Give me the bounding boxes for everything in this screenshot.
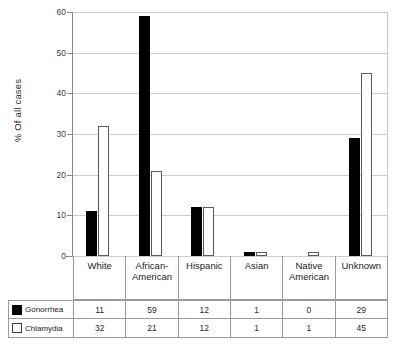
value-cell-chlamydia-white: 32 [74, 319, 126, 337]
bar-group [73, 12, 126, 256]
category-cell-unknown: Unknown [336, 256, 387, 299]
value-cell-gonorrhea-african-american: 59 [126, 301, 178, 318]
bar-group [336, 12, 389, 256]
category-header-row: WhiteAfrican-AmericanHispanicAsianNative… [73, 256, 388, 300]
category-cell-white: White [74, 256, 126, 299]
y-tick-label: 20 [26, 170, 66, 180]
value-cell-gonorrhea-white: 11 [74, 301, 126, 318]
filled-square-icon [12, 305, 22, 315]
y-tick-label: 30 [26, 129, 66, 139]
category-cell-asian: Asian [231, 256, 283, 299]
y-tick-label: 40 [26, 88, 66, 98]
y-tick-label: 60 [26, 7, 66, 17]
category-cell-african-american: African-American [126, 256, 178, 299]
value-cell-chlamydia-native-american: 1 [283, 319, 335, 337]
value-cell-gonorrhea-asian: 1 [231, 301, 283, 318]
value-cell-gonorrhea-unknown: 29 [336, 301, 387, 318]
bar-group [178, 12, 231, 256]
y-tick-label: 0 [26, 251, 66, 261]
bar-gonorrhea-african-american [139, 16, 150, 256]
bar-gonorrhea-white [86, 211, 97, 256]
y-axis-title: % Of all cases [12, 56, 23, 166]
category-cell-hispanic: Hispanic [179, 256, 231, 299]
value-cell-chlamydia-african-american: 21 [126, 319, 178, 337]
plot-area [73, 12, 388, 256]
y-tick-label: 10 [26, 210, 66, 220]
bar-group [126, 12, 179, 256]
bar-chlamydia-hispanic [203, 207, 214, 256]
hollow-square-icon [12, 323, 22, 333]
legend-cell-chlamydia: Chlamydia [9, 319, 74, 337]
table-row: Gonorrhea1159121029 [8, 300, 388, 319]
legend-cell-gonorrhea: Gonorrhea [9, 301, 74, 318]
bar-chlamydia-african-american [151, 171, 162, 256]
y-tick-label: 50 [26, 48, 66, 58]
legend-label: Chlamydia [25, 324, 63, 333]
category-cell-native-american: NativeAmerican [283, 256, 335, 299]
bar-chlamydia-unknown [361, 73, 372, 256]
bar-gonorrhea-unknown [349, 138, 360, 256]
table-row: Chlamydia3221121145 [8, 319, 388, 338]
bar-group [283, 12, 336, 256]
value-cell-gonorrhea-native-american: 0 [283, 301, 335, 318]
value-cell-chlamydia-unknown: 45 [336, 319, 387, 337]
value-cell-chlamydia-hispanic: 12 [179, 319, 231, 337]
value-cell-gonorrhea-hispanic: 12 [179, 301, 231, 318]
series-value-rows: Gonorrhea1159121029Chlamydia3221121145 [8, 300, 388, 338]
grouped-bar-chart-figure: % Of all cases 6050403020100 WhiteAfrica… [0, 0, 403, 352]
value-cell-chlamydia-asian: 1 [231, 319, 283, 337]
bar-chlamydia-white [98, 126, 109, 256]
bar-gonorrhea-hispanic [191, 207, 202, 256]
bar-group [231, 12, 284, 256]
legend-label: Gonorrhea [25, 305, 63, 314]
